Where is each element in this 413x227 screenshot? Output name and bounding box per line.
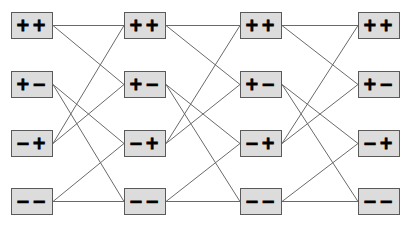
node-label: −− bbox=[363, 193, 396, 210]
node-col2-row4: −− bbox=[124, 188, 166, 215]
transition-edge bbox=[53, 85, 124, 202]
transition-edge bbox=[53, 144, 124, 202]
node-label: −+ bbox=[245, 135, 278, 152]
node-col4-row2: +− bbox=[358, 71, 400, 98]
node-label: ++ bbox=[129, 17, 162, 34]
node-label: −+ bbox=[129, 135, 162, 152]
node-label: +− bbox=[16, 76, 49, 93]
node-label: ++ bbox=[245, 17, 278, 34]
state-transition-diagram: ++ +− −+ −− ++ +− −+ −− ++ +− −+ −− ++ +… bbox=[0, 0, 413, 227]
transition-edge bbox=[166, 26, 240, 85]
edge-layer bbox=[0, 0, 413, 227]
node-label: +− bbox=[363, 76, 396, 93]
node-col3-row4: −− bbox=[240, 188, 282, 215]
node-label: −− bbox=[16, 193, 49, 210]
transition-edge bbox=[166, 85, 240, 202]
transition-edge bbox=[166, 144, 240, 202]
transition-edge bbox=[166, 26, 240, 144]
node-col1-row1: ++ bbox=[11, 12, 53, 39]
transition-edge bbox=[282, 85, 358, 202]
node-col1-row2: +− bbox=[11, 71, 53, 98]
transition-edge bbox=[53, 26, 124, 85]
node-col3-row1: ++ bbox=[240, 12, 282, 39]
node-label: +− bbox=[129, 76, 162, 93]
transition-edge bbox=[282, 26, 358, 144]
node-col1-row4: −− bbox=[11, 188, 53, 215]
node-col2-row1: ++ bbox=[124, 12, 166, 39]
transition-edge bbox=[282, 144, 358, 202]
node-col4-row3: −+ bbox=[358, 130, 400, 157]
transition-edge bbox=[53, 26, 124, 144]
node-label: −− bbox=[129, 193, 162, 210]
node-col2-row3: −+ bbox=[124, 130, 166, 157]
node-col3-row3: −+ bbox=[240, 130, 282, 157]
node-label: ++ bbox=[363, 17, 396, 34]
transition-edge bbox=[282, 26, 358, 85]
node-col4-row4: −− bbox=[358, 188, 400, 215]
node-label: −+ bbox=[363, 135, 396, 152]
node-col1-row3: −+ bbox=[11, 130, 53, 157]
node-col2-row2: +− bbox=[124, 71, 166, 98]
node-label: ++ bbox=[16, 17, 49, 34]
node-col3-row2: +− bbox=[240, 71, 282, 98]
node-label: −+ bbox=[16, 135, 49, 152]
node-col4-row1: ++ bbox=[358, 12, 400, 39]
node-label: +− bbox=[245, 76, 278, 93]
node-label: −− bbox=[245, 193, 278, 210]
